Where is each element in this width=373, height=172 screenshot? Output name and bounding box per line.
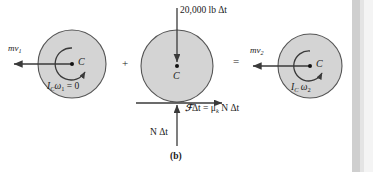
operator-plus: + [122, 58, 128, 69]
figure-canvas: mv1 C ICω1 = 0 + 20,000 lb Δt C ℱΔt = μk… [0, 0, 373, 172]
center-point-final [308, 64, 312, 68]
label-normal-impulse: N Δt [150, 128, 168, 138]
label-momentum-final: mv2 [250, 46, 264, 56]
label-friction-impulse: ℱΔt = μk N Δt [185, 104, 239, 114]
label-center-final: C [316, 59, 323, 69]
label-angular-momentum-final: IC ω2 [291, 83, 311, 93]
label-weight-impulse: 20,000 lb Δt [180, 6, 227, 16]
figure-caption: (b) [170, 152, 182, 162]
operator-equals: = [233, 56, 239, 67]
label-center-impulse: C [173, 71, 180, 81]
right-margin-band [352, 0, 373, 172]
center-point-impulse [175, 64, 179, 68]
label-momentum-initial: mv1 [8, 44, 22, 54]
label-angular-momentum-initial: ICω1 = 0 [47, 82, 79, 92]
label-center-initial: C [78, 57, 85, 67]
center-point-initial [70, 62, 74, 66]
